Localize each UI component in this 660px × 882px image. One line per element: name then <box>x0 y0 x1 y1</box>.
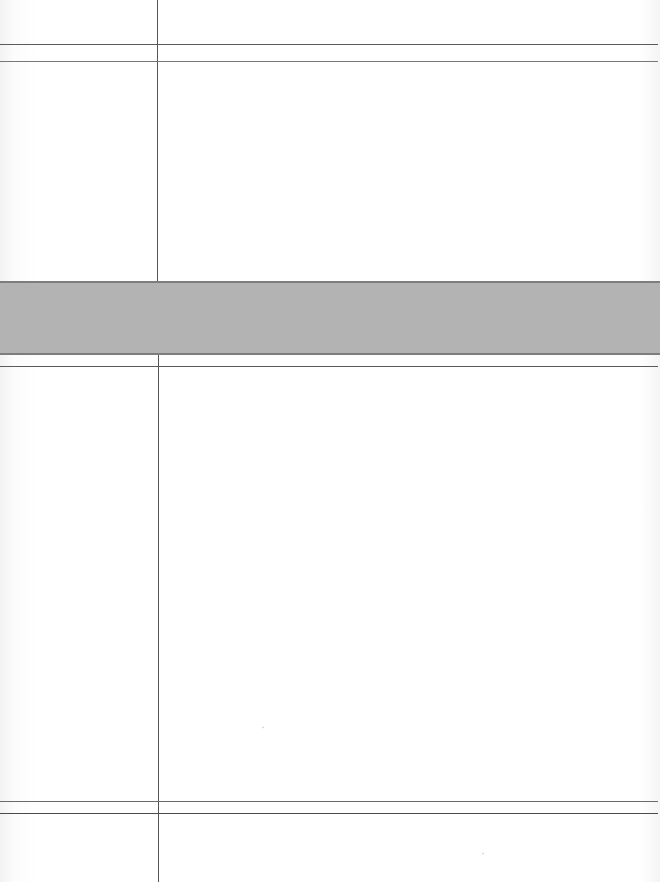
middle-right-cell <box>159 367 659 799</box>
top-right-cell <box>158 62 658 280</box>
footer-left-cell <box>0 814 157 882</box>
header-left-cell <box>0 0 158 44</box>
header-right-cell <box>159 0 659 44</box>
middle-left-cell <box>0 367 157 799</box>
footer-right-cell <box>159 814 659 882</box>
shaded-band <box>0 281 660 355</box>
form-page <box>0 0 660 882</box>
rule-line <box>0 801 658 802</box>
top-left-cell <box>0 62 157 280</box>
rule-line <box>0 44 658 45</box>
